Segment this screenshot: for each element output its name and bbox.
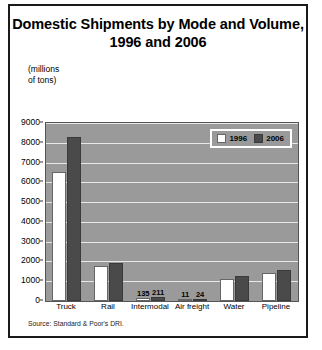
y-axis-tick-label: 5000	[21, 196, 40, 206]
legend-entry-2006: 2006	[254, 134, 284, 143]
bar-group	[94, 123, 124, 301]
y-axis-tick-label: 1000	[21, 275, 40, 285]
bar-air-freight-1996: 11	[178, 299, 192, 301]
bar-group	[262, 123, 292, 301]
bar-pipeline-2006	[277, 270, 291, 301]
bar-group: 135211	[136, 123, 166, 301]
gridline	[46, 182, 298, 183]
bar-truck-2006	[67, 137, 81, 301]
plot-area: 1352111124 19962006	[45, 122, 299, 302]
bar-value-label: 135	[137, 289, 150, 298]
y-axis-tick-mark	[40, 280, 43, 281]
bar-value-label: 211	[152, 288, 164, 297]
y-axis-tick-mark	[40, 300, 43, 301]
x-axis-tick-label-water: Water	[213, 302, 255, 311]
y-axis-tick-label: 2000	[21, 255, 40, 265]
bar-pipeline-1996	[262, 273, 276, 301]
y-axis-tick-mark	[40, 260, 43, 261]
bar-group: 1124	[178, 123, 208, 301]
bar-rail-2006	[109, 263, 123, 301]
gridline	[46, 242, 298, 243]
chart-legend: 19962006	[210, 129, 292, 148]
y-axis-tick-mark	[40, 122, 43, 123]
x-axis-tick-labels: TruckRailIntermodalAir freightWaterPipel…	[45, 302, 297, 316]
legend-swatch-1996	[217, 134, 226, 143]
x-axis-tick-label-pipeline: Pipeline	[255, 302, 297, 311]
bar-group	[220, 123, 250, 301]
bar-group	[52, 123, 82, 301]
gridline	[46, 261, 298, 262]
gridline	[46, 163, 298, 164]
y-axis-tick-labels: 0100020003000400050006000700080009000	[10, 122, 43, 300]
y-axis-tick-mark	[40, 161, 43, 162]
y-axis-tick-mark	[40, 220, 43, 221]
y-axis-tick-label: 7000	[21, 157, 40, 167]
x-axis-tick-label-rail: Rail	[87, 302, 129, 311]
source-note: Source: Standard & Poor's DRI.	[28, 320, 124, 327]
bar-intermodal-2006: 211	[151, 297, 165, 301]
bar-rail-1996	[94, 266, 108, 301]
y-axis-tick-mark	[40, 181, 43, 182]
y-axis-unit-label: (millions of tons)	[28, 64, 59, 85]
y-axis-tick-mark	[40, 201, 43, 202]
bar-value-label: 11	[181, 290, 189, 299]
gridline	[46, 202, 298, 203]
x-axis-tick-label-air-freight: Air freight	[171, 302, 213, 311]
x-axis-tick-label-truck: Truck	[45, 302, 87, 311]
y-axis-tick-mark	[40, 240, 43, 241]
bar-truck-1996	[52, 172, 66, 301]
gridline	[46, 281, 298, 282]
y-axis-tick-label: 3000	[21, 236, 40, 246]
chart-title: Domestic Shipments by Mode and Volume, 1…	[10, 15, 306, 51]
bar-air-freight-2006: 24	[193, 299, 207, 301]
y-axis-tick-label: 8000	[21, 137, 40, 147]
y-axis-tick-label: 4000	[21, 216, 40, 226]
chart-figure: Domestic Shipments by Mode and Volume, 1…	[8, 4, 308, 338]
legend-label-1996: 1996	[229, 134, 247, 143]
y-axis-tick-label: 9000	[21, 117, 40, 127]
legend-entry-1996: 1996	[217, 134, 247, 143]
x-axis-tick-label-intermodal: Intermodal	[129, 302, 171, 311]
gridline	[46, 222, 298, 223]
y-axis-tick-mark	[40, 141, 43, 142]
gridline	[46, 123, 298, 124]
bar-water-2006	[235, 276, 249, 301]
bar-intermodal-1996: 135	[136, 298, 150, 301]
bar-water-1996	[220, 279, 234, 301]
bar-value-label: 24	[196, 290, 204, 299]
legend-swatch-2006	[254, 134, 263, 143]
legend-label-2006: 2006	[266, 134, 284, 143]
y-axis-tick-label: 6000	[21, 176, 40, 186]
